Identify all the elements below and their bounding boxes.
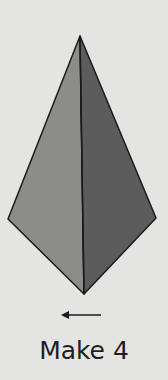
kite-diagram	[0, 0, 168, 380]
kite-left-face	[8, 36, 84, 294]
caption-make-count: Make 4	[0, 336, 168, 365]
left-arrow-icon	[61, 311, 101, 319]
kite-right-face	[80, 36, 156, 294]
